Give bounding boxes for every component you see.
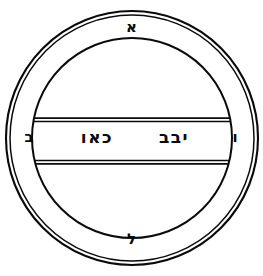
band-rules <box>20 118 244 164</box>
seal-figure: א ל ב ו יבב כאו <box>0 0 263 276</box>
band-word-right: יבב <box>143 129 205 146</box>
ring-letter-left: ב <box>20 130 38 145</box>
outer-ring-inner-circle <box>10 15 254 261</box>
band-word-left: כאו <box>66 129 128 146</box>
ring-letter-right: ו <box>226 130 244 145</box>
seal-strokes <box>6 11 258 265</box>
ring-letter-bottom: ל <box>0 232 263 247</box>
ring-letter-top: א <box>0 20 263 35</box>
outer-ring-outer-circle <box>6 11 258 265</box>
